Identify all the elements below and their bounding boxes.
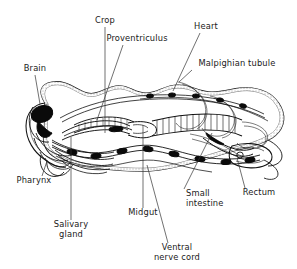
label-proventriculus: Proventriculus — [106, 33, 167, 43]
label-heart: Heart — [194, 21, 218, 31]
label-brain: Brain — [24, 63, 47, 73]
label-salivary-gland-line2: gland — [59, 229, 83, 239]
label-rectum: Rectum — [243, 187, 276, 197]
label-pharynx: Pharynx — [17, 175, 52, 185]
label-small-intestine-line2: intestine — [186, 198, 224, 208]
label-midgut: Midgut — [128, 207, 158, 217]
label-ventral-nerve-cord-line1: Ventral — [162, 242, 193, 252]
label-crop: Crop — [95, 15, 115, 25]
label-malpighian-tubule: Malpighian tubule — [199, 58, 276, 68]
label-small-intestine-line1: Small — [186, 188, 210, 198]
label-ventral-nerve-cord-line2: nerve cord — [154, 252, 200, 262]
insect-anatomy-figure: Crop Proventriculus Heart Malpighian tub… — [0, 0, 297, 269]
label-salivary-gland-line1: Salivary — [54, 219, 88, 229]
